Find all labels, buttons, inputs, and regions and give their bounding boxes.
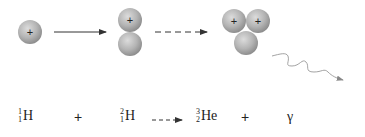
nuclide-hydrogen-1: 1 1 H — [18, 108, 33, 124]
gamma-symbol: γ — [287, 109, 293, 125]
proton-charge-label: + — [231, 15, 237, 27]
proton-particle: + — [18, 20, 42, 44]
element-symbol: H — [23, 108, 33, 124]
atomic-number: 2 — [196, 116, 200, 124]
element-symbol: H — [125, 108, 135, 124]
gamma-ray-wave-icon — [272, 54, 343, 80]
proton-charge-label: + — [127, 14, 133, 26]
nuclide-hydrogen-2: 2 1 H — [120, 108, 135, 124]
helium3-nucleus: + + — [222, 9, 270, 55]
nuclide-helium-3: 3 2 He — [196, 108, 217, 124]
proton-charge-label: + — [255, 15, 261, 27]
atomic-number: 1 — [120, 116, 124, 124]
atomic-number: 1 — [18, 116, 22, 124]
element-symbol: He — [201, 108, 217, 124]
proton-charge-label: + — [27, 26, 33, 38]
neutron-particle — [234, 31, 258, 55]
plus-operator: + — [241, 109, 249, 125]
neutron-particle — [118, 32, 142, 56]
fusion-diagram: + + + + — [0, 0, 365, 137]
plus-operator: + — [74, 109, 82, 125]
deuterium-nucleus: + — [118, 8, 142, 56]
